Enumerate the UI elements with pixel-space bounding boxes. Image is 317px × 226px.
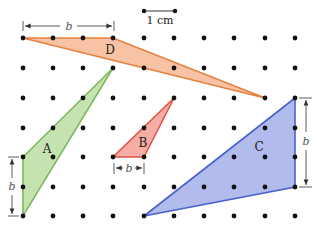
dimension-b-label-a: b bbox=[8, 180, 15, 193]
dot-grid-diagram: D A B C bbox=[0, 0, 317, 226]
dimension-b-b: b bbox=[114, 162, 144, 175]
dimension-b-c: b bbox=[299, 98, 312, 187]
scale-bar-label: 1 cm bbox=[146, 14, 174, 27]
scale-bar: 1 cm bbox=[142, 9, 177, 27]
triangle-c: C bbox=[144, 98, 295, 216]
dimension-b-label-d: b bbox=[65, 20, 72, 33]
triangle-b-label: B bbox=[139, 136, 148, 150]
triangle-d-label: D bbox=[105, 43, 115, 57]
dimension-b-label-b: b bbox=[125, 162, 132, 175]
triangle-a: A bbox=[23, 68, 113, 216]
dimension-b-a: b bbox=[8, 157, 19, 216]
dimension-b-label-c: b bbox=[302, 135, 309, 148]
dimension-b-d: b bbox=[23, 20, 114, 33]
triangle-a-label: A bbox=[42, 142, 52, 156]
triangle-c-label: C bbox=[254, 140, 263, 154]
